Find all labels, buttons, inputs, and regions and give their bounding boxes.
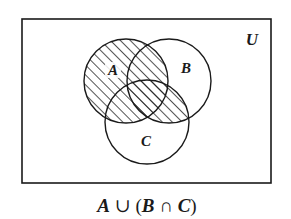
set-c-label: C bbox=[141, 133, 152, 149]
caption: A ∪ (B ∩ C) bbox=[96, 195, 196, 217]
venn-diagram: A B C U A ∪ (B ∩ C) bbox=[0, 0, 291, 219]
set-a-label: A bbox=[107, 62, 118, 78]
universe-label: U bbox=[246, 30, 259, 49]
set-b-label: B bbox=[180, 60, 191, 76]
